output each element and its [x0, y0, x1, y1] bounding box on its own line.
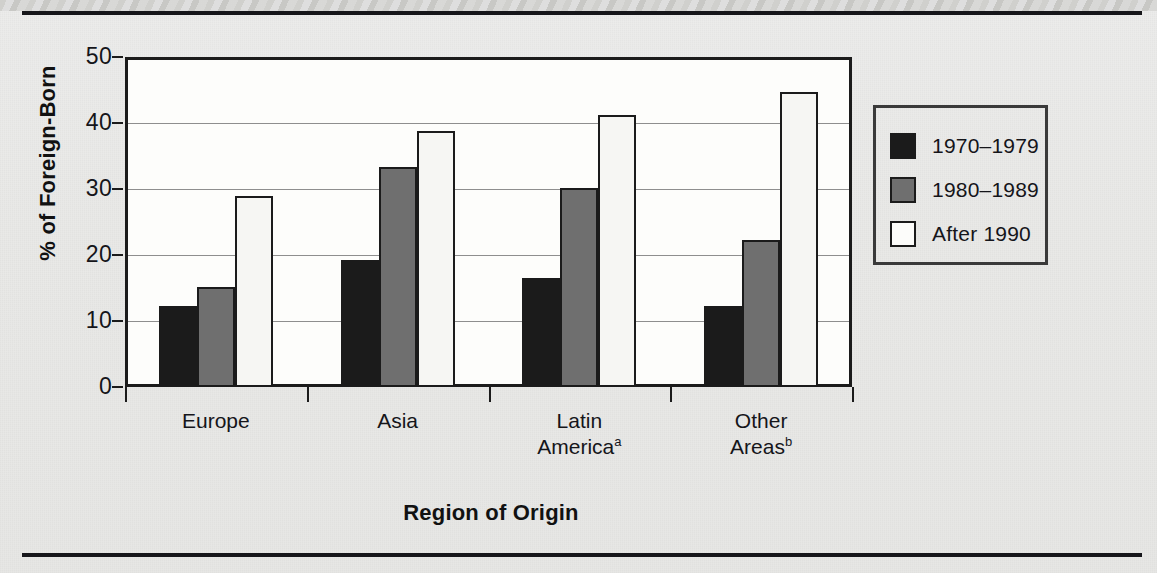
legend-item-label: 1980–1989 [932, 178, 1039, 202]
x-tick-mark [670, 387, 672, 402]
x-tick-mark [307, 387, 309, 402]
bar [341, 260, 379, 387]
x-tick-mark [125, 387, 127, 402]
footnote-marker: a [614, 434, 621, 449]
black-swatch [890, 133, 916, 159]
y-axis-tick-labels: 01020304050 [30, 0, 112, 573]
bar-group [307, 57, 489, 387]
y-tick-mark-10 [112, 320, 123, 322]
x-category-label: Asia [307, 408, 489, 434]
bar [560, 188, 598, 387]
y-tick-mark-50 [112, 56, 123, 58]
chart-legend: 1970–19791980–1989After 1990 [873, 105, 1048, 265]
bar-groups [125, 57, 852, 387]
white-swatch [890, 221, 916, 247]
x-axis-title: Region of Origin [0, 500, 982, 526]
y-tick-mark-30 [112, 188, 123, 190]
bar-group [670, 57, 852, 387]
x-category-label: OtherAreasb [670, 408, 852, 461]
bar [598, 115, 636, 387]
x-tick-mark [489, 387, 491, 402]
gray-swatch [890, 177, 916, 203]
x-category-label: Europe [125, 408, 307, 434]
y-tick-label-30: 30 [50, 177, 112, 200]
y-tick-mark-0 [112, 386, 123, 388]
y-tick-label-20: 20 [50, 243, 112, 266]
legend-item-label: After 1990 [932, 222, 1031, 246]
bar-chart: % of Foreign-Born 01020304050 EuropeAsia… [0, 0, 1157, 573]
bar [235, 196, 273, 387]
legend-item: After 1990 [890, 212, 1045, 256]
y-tick-mark-40 [112, 122, 123, 124]
bar [417, 131, 455, 387]
bar [742, 240, 780, 387]
y-tick-label-0: 0 [50, 375, 112, 398]
legend-item-label: 1970–1979 [932, 134, 1039, 158]
bar [780, 92, 818, 387]
x-category-label: LatinAmericaa [489, 408, 671, 461]
bar [704, 306, 742, 387]
footnote-marker: b [785, 434, 792, 449]
bar [197, 287, 235, 387]
y-tick-label-40: 40 [50, 111, 112, 134]
bar [159, 306, 197, 387]
y-tick-label-10: 10 [50, 309, 112, 332]
bar [379, 167, 417, 387]
bar-group [125, 57, 307, 387]
legend-item: 1980–1989 [890, 168, 1045, 212]
x-tick-mark [852, 387, 854, 402]
legend-item: 1970–1979 [890, 124, 1045, 168]
y-tick-mark-20 [112, 254, 123, 256]
bar-group [489, 57, 671, 387]
y-tick-label-50: 50 [50, 45, 112, 68]
bar [522, 278, 560, 387]
